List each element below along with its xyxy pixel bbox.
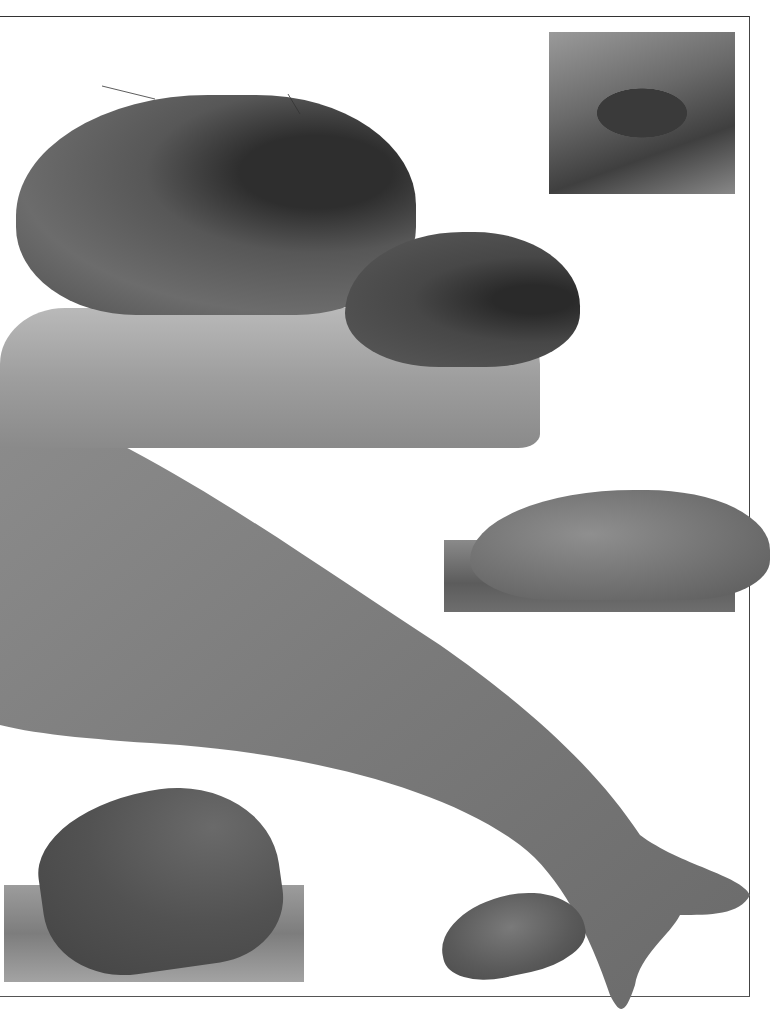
vibrissae-leader-line [100, 84, 160, 104]
top-rule [0, 16, 750, 17]
ears-leader-line [286, 92, 306, 116]
tree-hyrax-photo [549, 32, 735, 194]
